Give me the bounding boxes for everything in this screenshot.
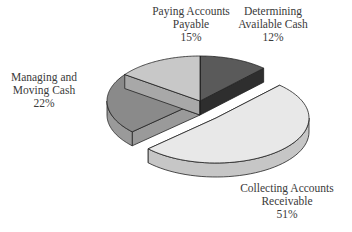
label-line: Available Cash: [228, 18, 318, 31]
label-managing-and-moving-cash: Managing and Moving Cash 22%: [0, 71, 88, 110]
label-line: Receivable: [232, 195, 342, 208]
label-line: Paying Accounts: [146, 5, 236, 18]
label-value: 51%: [232, 208, 342, 221]
label-line: Managing and: [0, 71, 88, 84]
label-line: Moving Cash: [0, 84, 88, 97]
label-value: 22%: [0, 97, 88, 110]
pie-chart: Paying Accounts Payable 15% Determining …: [0, 0, 352, 232]
label-value: 12%: [228, 31, 318, 44]
label-line: Collecting Accounts: [232, 182, 342, 195]
label-value: 15%: [146, 31, 236, 44]
label-determining-available-cash: Determining Available Cash 12%: [228, 5, 318, 44]
label-line: Payable: [146, 18, 236, 31]
label-collecting-accounts-receivable: Collecting Accounts Receivable 51%: [232, 182, 342, 221]
label-line: Determining: [228, 5, 318, 18]
label-paying-accounts-payable: Paying Accounts Payable 15%: [146, 5, 236, 44]
